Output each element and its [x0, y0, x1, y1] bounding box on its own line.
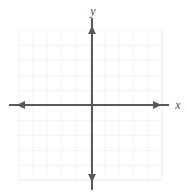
y-axis-label: y	[86, 5, 100, 17]
x-axis-label: x	[171, 99, 185, 111]
coordinate-plane-svg	[0, 0, 186, 196]
coordinate-plane-figure: y x	[0, 0, 186, 196]
